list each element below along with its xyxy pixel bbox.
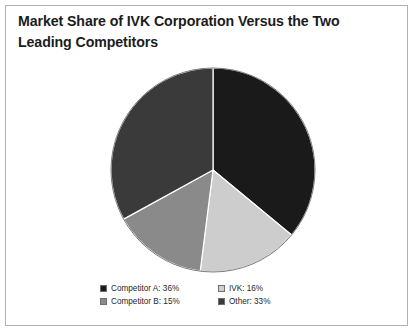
legend-item-other: Other: 33% — [218, 295, 330, 308]
legend-item-competitor-a: Competitor A: 36% — [100, 282, 218, 295]
chart-title-line-2: Leading Competitors — [18, 32, 358, 53]
legend-label-competitor-b: Competitor B: 15% — [111, 297, 180, 306]
chart-figure: Market Share of IVK Corporation Versus t… — [0, 0, 414, 334]
chart-legend: Competitor A: 36% IVK: 16% Competitor B:… — [100, 282, 330, 308]
legend-swatch-competitor-a — [100, 285, 107, 292]
legend-label-other: Other: 33% — [229, 297, 270, 306]
legend-item-competitor-b: Competitor B: 15% — [100, 295, 218, 308]
legend-swatch-competitor-b — [100, 298, 107, 305]
legend-swatch-ivk — [218, 285, 225, 292]
chart-title-line-1: Market Share of IVK Corporation Versus t… — [18, 11, 358, 32]
pie-chart-svg — [110, 66, 316, 274]
legend-swatch-other — [218, 298, 225, 305]
legend-label-ivk: IVK: 16% — [229, 284, 263, 293]
legend-label-competitor-a: Competitor A: 36% — [111, 284, 179, 293]
legend-item-ivk: IVK: 16% — [218, 282, 330, 295]
chart-title: Market Share of IVK Corporation Versus t… — [18, 11, 358, 53]
pie-chart — [110, 66, 316, 274]
pie-slice-group — [111, 68, 315, 272]
